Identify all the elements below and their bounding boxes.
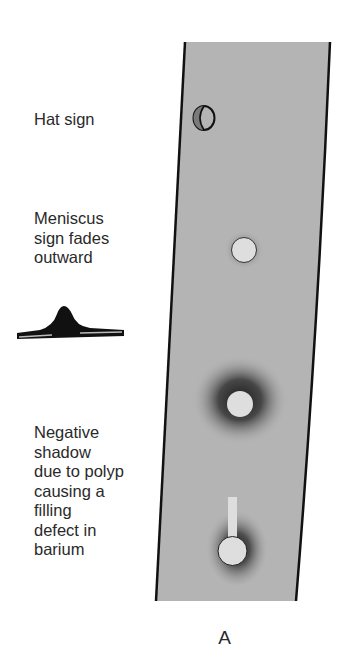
figure-caption: A — [0, 627, 345, 649]
hat-sign-label: Hat sign — [34, 110, 95, 130]
hat-sign-icon — [194, 106, 215, 130]
caption-letter: A — [218, 627, 231, 648]
meniscus-label: Meniscus sign fades outward — [34, 209, 109, 268]
shadow-line-5: filling — [34, 501, 124, 521]
meniscus-line-3: outward — [34, 248, 109, 268]
shadow-line-1: Negative — [34, 423, 124, 443]
meniscus-polyp-icon — [232, 238, 257, 263]
meniscus-profile-icon — [17, 306, 124, 339]
sessile-polyp-icon — [227, 391, 253, 417]
shadow-line-2: shadow — [34, 443, 124, 463]
shadow-line-7: barium — [34, 540, 124, 560]
meniscus-line-1: Meniscus — [34, 209, 109, 229]
bowel-segment — [156, 42, 330, 601]
negative-shadow-label: Negative shadow due to polyp causing a f… — [34, 423, 124, 560]
meniscus-line-2: sign fades — [34, 229, 109, 249]
hat-sign-text: Hat sign — [34, 110, 95, 130]
shadow-line-3: due to polyp — [34, 462, 124, 482]
shadow-line-6: defect in — [34, 521, 124, 541]
shadow-line-4: causing a — [34, 482, 124, 502]
